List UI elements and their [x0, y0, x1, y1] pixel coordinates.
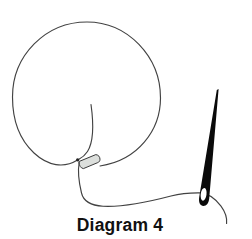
diagram-canvas: Diagram 4 [0, 0, 252, 239]
diagram-figure: Diagram 4 [0, 0, 252, 239]
anchor-dot [76, 158, 79, 161]
inner-thread-end [78, 105, 93, 160]
thread-loop [13, 22, 161, 166]
diagram-caption: Diagram 4 [77, 215, 163, 235]
needle [199, 89, 219, 206]
